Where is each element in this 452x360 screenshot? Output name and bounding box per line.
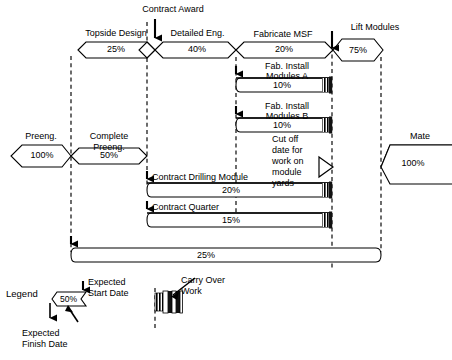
value-topside-design-percent: 25% bbox=[86, 44, 146, 55]
label-detailed-eng: Detailed Eng. bbox=[150, 28, 245, 39]
label-mate: Mate bbox=[392, 131, 448, 142]
label-contract-quarter: Contract Quarter bbox=[152, 202, 219, 213]
value-fabricate-msf-percent: 20% bbox=[254, 44, 314, 55]
value-fab-install-b-percent: 10% bbox=[254, 120, 310, 131]
value-fab-install-a-percent: 10% bbox=[254, 80, 310, 91]
value-lift-modules-percent: 75% bbox=[334, 45, 382, 56]
label-contract-drilling-module: Contract Drilling Module bbox=[152, 172, 248, 183]
label-fab-install-a-line1: Fab. Install bbox=[242, 61, 332, 72]
label-cutoff-line1: Cut off bbox=[272, 134, 298, 145]
legend-carry-over-line2: Work bbox=[181, 286, 202, 297]
legend-title: Legend bbox=[6, 289, 38, 300]
legend-expected-start-line2: Start Date bbox=[88, 288, 129, 299]
value-complete-preeng-percent: 50% bbox=[82, 150, 136, 161]
cutoff-date-triangle bbox=[319, 157, 333, 177]
legend-expected-finish-line1: Expected bbox=[22, 328, 60, 339]
legend-expected-start-line1: Expected bbox=[88, 277, 126, 288]
label-preeng: Preeng. bbox=[10, 131, 72, 142]
value-mate-percent: 100% bbox=[388, 158, 438, 169]
label-cutoff-line4: module bbox=[272, 167, 302, 178]
gantt-diagram-canvas: Contract Award Topside Design 25% Detail… bbox=[0, 0, 452, 360]
label-fabricate-msf: Fabricate MSF bbox=[233, 29, 333, 40]
label-contract-award: Contract Award bbox=[113, 4, 233, 15]
label-complete-preeng-line1: Complete bbox=[73, 131, 145, 142]
legend-expected-finish-line2: Finish Date bbox=[22, 339, 68, 350]
value-contract-quarter-percent: 15% bbox=[200, 215, 262, 226]
value-summary-percent: 25% bbox=[175, 250, 237, 261]
label-lift-modules: Lift Modules bbox=[330, 22, 420, 33]
label-cutoff-line2: date for bbox=[272, 145, 303, 156]
carry-over-block-cq bbox=[322, 213, 329, 227]
legend-carry-over-line1: Carry Over bbox=[181, 275, 225, 286]
value-detailed-eng-percent: 40% bbox=[166, 44, 228, 55]
carry-over-block-cdm bbox=[322, 183, 329, 197]
label-cutoff-line3: work on bbox=[272, 156, 304, 167]
label-cutoff-line5: yards bbox=[272, 178, 294, 189]
value-contract-drilling-module-percent: 20% bbox=[200, 185, 262, 196]
value-preeng-percent: 100% bbox=[16, 150, 68, 161]
legend-sample-percent: 50% bbox=[60, 294, 77, 305]
label-fab-install-b-line1: Fab. Install bbox=[242, 101, 332, 112]
